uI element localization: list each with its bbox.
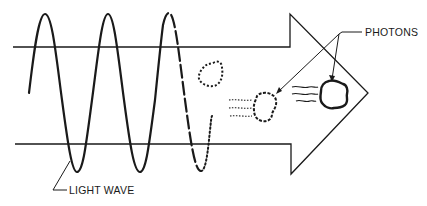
light-wave-callout-line <box>53 161 70 190</box>
photons-label: PHOTONS <box>365 26 418 38</box>
photons-arrowheads <box>276 75 335 94</box>
sine-wave-solid <box>29 14 163 172</box>
sine-wave-dashed <box>163 13 201 171</box>
photon-solid-icon <box>320 80 347 108</box>
photon-dotted-icon <box>199 62 223 87</box>
light-wave-photon-diagram <box>0 0 427 206</box>
photon-partial-icon <box>254 93 276 121</box>
motion-lines-solid <box>292 86 318 101</box>
light-wave-label: LIGHT WAVE <box>69 184 134 196</box>
motion-lines-dotted <box>229 100 252 117</box>
